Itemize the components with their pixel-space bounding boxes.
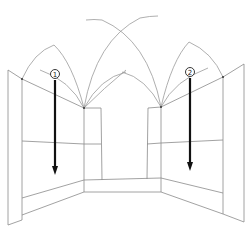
left-outer-pier [8,70,22,225]
right-outer-pier [223,64,244,222]
arrow-1: 1 [51,70,60,176]
back-wall [84,107,161,192]
corner-dot [83,107,85,109]
left-wall [22,79,84,215]
vault-ribs [40,16,208,108]
corner-dot [160,106,162,108]
arrow-2: 2 [186,68,195,172]
corner-dot [222,76,224,78]
marker-1-label: 1 [53,71,57,79]
arrow-down-icon [187,162,193,171]
arrow-down-icon [52,166,58,175]
marker-2-label: 2 [188,69,192,77]
vault-drawing: 1 2 [0,0,252,233]
vault-diagram: 1 2 [0,0,252,233]
corner-dot [21,78,23,80]
right-wall [161,77,223,214]
